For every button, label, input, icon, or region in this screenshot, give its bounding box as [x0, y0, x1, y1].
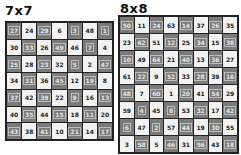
cell-number: 2: [88, 61, 92, 68]
board-cell: 3: [120, 136, 134, 152]
board-cell: 38: [22, 123, 36, 139]
cell-number: 1: [101, 26, 109, 35]
board-cell: 27: [223, 51, 237, 67]
board-cell: 61: [120, 68, 134, 84]
cell-number: 32: [55, 61, 63, 68]
cell-number: 20: [180, 89, 192, 98]
cell-number: 27: [8, 26, 20, 35]
cell-number: 26: [40, 44, 48, 51]
cell-number: 34: [10, 77, 18, 84]
board-cell: 9: [68, 90, 82, 106]
board-cell: 60: [150, 85, 164, 101]
cell-number: 49: [137, 56, 145, 63]
board-cell: 35: [223, 17, 237, 33]
cell-number: 29: [226, 90, 234, 97]
cell-number: 24: [25, 27, 33, 34]
cell-number: 43: [8, 127, 20, 136]
board-cell: 35: [22, 107, 36, 123]
board-cell: 57: [164, 119, 178, 135]
cell-number: 23: [38, 60, 50, 69]
cell-number: 39: [211, 73, 219, 80]
board-cell: 40: [7, 107, 21, 123]
board-cell: 23: [37, 56, 51, 72]
cell-number: 9: [154, 73, 158, 80]
cell-number: 33: [182, 73, 190, 80]
board-cell: 14: [83, 123, 97, 139]
cell-number: 46: [70, 44, 78, 51]
cell-number: 25: [182, 39, 190, 46]
cell-number: 26: [209, 21, 221, 30]
cell-number: 2: [152, 123, 160, 132]
cell-number: 30: [209, 123, 221, 132]
board-cell: 49: [135, 51, 149, 67]
board-cell: 25: [179, 34, 193, 50]
cell-number: 42: [25, 94, 33, 101]
cell-number: 14: [180, 21, 192, 30]
board-cell: 18: [223, 136, 237, 152]
cell-number: 48: [121, 89, 133, 98]
board-cell: 43: [7, 123, 21, 139]
board-cell: 46: [164, 136, 178, 152]
cell-number: 40: [180, 55, 192, 64]
cell-number: 34: [194, 38, 206, 47]
cell-number: 57: [167, 124, 175, 131]
board-cell: 37: [7, 90, 21, 106]
cell-number: 29: [38, 26, 50, 35]
board-cell: 51: [150, 34, 164, 50]
cell-number: 21: [167, 56, 175, 63]
cell-number: 11: [137, 22, 145, 29]
cell-number: 18: [70, 111, 78, 118]
cell-number: 35: [226, 22, 234, 29]
board-cell: 9: [150, 68, 164, 84]
board-cell: 47: [98, 56, 112, 72]
board-cell: 34: [194, 34, 208, 50]
board-cell: 19: [83, 73, 97, 89]
cell-number: 43: [211, 141, 219, 148]
cell-number: 6: [123, 123, 131, 132]
board-7x7: 2724296348130332649467425282332524734313…: [5, 21, 114, 141]
cell-number: 64: [150, 55, 162, 64]
cell-number: 45: [152, 107, 160, 114]
board-cell: 8: [98, 73, 112, 89]
cell-number: 4: [138, 106, 146, 115]
board-cell: 18: [68, 107, 82, 123]
cell-number: 44: [180, 123, 192, 132]
cell-number: 50: [121, 21, 133, 30]
board-cell: 11: [83, 107, 97, 123]
board-cell: 39: [37, 90, 51, 106]
board-cell: 45: [52, 73, 66, 89]
board-cell: 43: [209, 136, 223, 152]
cell-number: 42: [224, 106, 236, 115]
cell-number: 47: [137, 124, 145, 131]
board-cell: 55: [223, 119, 237, 135]
board-cell: 59: [120, 102, 134, 118]
board-cell: 21: [164, 51, 178, 67]
cell-number: 44: [40, 111, 48, 118]
cell-number: 17: [99, 127, 111, 136]
cell-number: 39: [38, 93, 50, 102]
board-cell: 37: [194, 17, 208, 33]
cell-number: 41: [38, 127, 50, 136]
board-cell: 31: [179, 136, 193, 152]
cell-number: 10: [121, 55, 133, 64]
board-cell: 3: [68, 23, 82, 39]
cell-number: 1: [169, 90, 173, 97]
cell-number: 11: [84, 110, 96, 119]
board-cell: 46: [68, 40, 82, 56]
cell-number: 16: [86, 94, 94, 101]
board-cell: 21: [68, 123, 82, 139]
cell-number: 25: [8, 60, 20, 69]
board-cell: 22: [52, 90, 66, 106]
board-cell: 11: [135, 17, 149, 33]
board-cell: 30: [209, 119, 223, 135]
board-cell: 6: [120, 119, 134, 135]
cell-number: 31: [182, 141, 190, 148]
board-cell: 16: [83, 90, 97, 106]
board-cell: 24: [150, 17, 164, 33]
cell-number: 13: [196, 56, 204, 63]
cell-number: 10: [55, 128, 63, 135]
board-cell: 10: [120, 51, 134, 67]
board-cell: 12: [68, 73, 82, 89]
board-cell: 31: [22, 73, 36, 89]
board-cell: 17: [209, 102, 223, 118]
